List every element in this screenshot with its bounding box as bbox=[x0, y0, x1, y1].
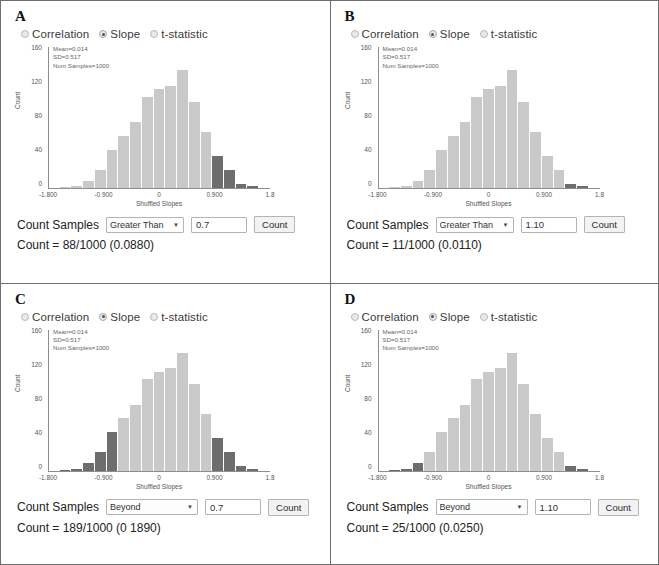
histogram-bar bbox=[401, 469, 413, 471]
stat-mean: Mean=0.014 bbox=[383, 45, 439, 53]
radio-correlation-b[interactable]: Correlation bbox=[351, 28, 419, 40]
y-tick-120: 120 bbox=[20, 361, 42, 368]
histogram-bar bbox=[177, 70, 189, 188]
count-controls-c: Count Samples Greater ThanLess ThanBeyon… bbox=[17, 499, 320, 516]
histogram-bar bbox=[436, 432, 448, 470]
x-axis-label: Shuffled Slopes bbox=[378, 483, 600, 490]
radio-slope-d[interactable]: Slope bbox=[429, 311, 470, 323]
panel-c: C Correlation Slope t-statistic Count 16… bbox=[1, 283, 330, 565]
radio-circle-icon[interactable] bbox=[21, 313, 29, 321]
radio-circle-icon[interactable] bbox=[21, 30, 29, 38]
comparison-dropdown-wrap[interactable]: Greater ThanLess ThanBeyondBetween ▼ bbox=[106, 217, 184, 233]
radio-circle-icon[interactable] bbox=[150, 313, 158, 321]
radio-slope-a[interactable]: Slope bbox=[99, 28, 140, 40]
threshold-input[interactable] bbox=[535, 499, 591, 515]
count-controls-d: Count Samples Greater ThanLess ThanBeyon… bbox=[347, 499, 649, 516]
y-tick-40: 40 bbox=[350, 146, 372, 153]
threshold-input[interactable] bbox=[205, 499, 261, 515]
comparison-dropdown[interactable]: Greater ThanLess ThanBeyondBetween bbox=[436, 499, 528, 515]
threshold-input[interactable] bbox=[191, 217, 247, 233]
stat-num-samples: Num Samples=1000 bbox=[383, 344, 439, 352]
x-axis-line bbox=[48, 188, 270, 189]
histogram-bar bbox=[118, 418, 130, 470]
x-tick-label: -0.900 bbox=[94, 474, 112, 481]
x-axis-line bbox=[48, 471, 270, 472]
radio-slope-b[interactable]: Slope bbox=[429, 28, 470, 40]
y-axis-label: Count bbox=[344, 374, 351, 391]
y-tick-80: 80 bbox=[20, 395, 42, 402]
count-result-a: Count = 88/1000 (0.0880) bbox=[17, 238, 320, 252]
y-tick-160: 160 bbox=[350, 44, 372, 51]
histogram-bar bbox=[118, 136, 130, 188]
stats-annotation-b: Mean=0.014 SD=0.517 Num Samples=1000 bbox=[383, 45, 439, 70]
histogram-bar bbox=[224, 170, 236, 188]
radio-tstatistic-c[interactable]: t-statistic bbox=[150, 311, 207, 323]
x-tick-label: 0.900 bbox=[536, 191, 552, 198]
histogram-bar bbox=[448, 418, 460, 470]
radio-circle-selected-icon[interactable] bbox=[429, 30, 437, 38]
panel-letter-c: C bbox=[15, 292, 320, 307]
radio-correlation-a[interactable]: Correlation bbox=[21, 28, 89, 40]
histogram-bar bbox=[95, 452, 107, 470]
histogram-bar bbox=[236, 466, 248, 470]
stat-num-samples: Num Samples=1000 bbox=[53, 62, 109, 70]
count-samples-label: Count Samples bbox=[347, 500, 429, 514]
radio-circle-icon[interactable] bbox=[351, 30, 359, 38]
histogram-bar bbox=[247, 186, 259, 188]
x-tick-label: -1.800 bbox=[368, 474, 386, 481]
histogram-bar bbox=[236, 184, 248, 188]
histogram-bar bbox=[436, 150, 448, 188]
count-button[interactable]: Count bbox=[254, 216, 295, 233]
stat-sd: SD=0.517 bbox=[53, 336, 109, 344]
radio-correlation-d[interactable]: Correlation bbox=[351, 311, 419, 323]
histogram-bar bbox=[542, 438, 554, 470]
radio-circle-icon[interactable] bbox=[480, 313, 488, 321]
count-button[interactable]: Count bbox=[598, 499, 639, 516]
radio-tstatistic-a[interactable]: t-statistic bbox=[150, 28, 207, 40]
comparison-dropdown[interactable]: Greater ThanLess ThanBeyondBetween bbox=[436, 217, 514, 233]
comparison-dropdown-wrap[interactable]: Greater ThanLess ThanBeyondBetween ▼ bbox=[106, 499, 198, 515]
radio-slope-c[interactable]: Slope bbox=[99, 311, 140, 323]
x-tick-label: -0.900 bbox=[94, 191, 112, 198]
comparison-dropdown[interactable]: Greater ThanLess ThanBeyondBetween bbox=[106, 499, 198, 515]
threshold-input[interactable] bbox=[521, 217, 577, 233]
y-tick-120: 120 bbox=[350, 361, 372, 368]
radio-tstatistic-b[interactable]: t-statistic bbox=[480, 28, 537, 40]
x-tick-label: -1.800 bbox=[39, 191, 57, 198]
statistic-radio-group-b: Correlation Slope t-statistic bbox=[351, 28, 649, 40]
radio-label-slope: Slope bbox=[440, 311, 470, 323]
y-tick-0: 0 bbox=[20, 180, 42, 187]
stats-annotation-c: Mean=0.014 SD=0.517 Num Samples=1000 bbox=[53, 328, 109, 353]
histogram-bar bbox=[413, 181, 425, 188]
radio-circle-icon[interactable] bbox=[150, 30, 158, 38]
histogram-bar bbox=[577, 469, 589, 471]
count-button[interactable]: Count bbox=[584, 216, 625, 233]
statistic-radio-group-a: Correlation Slope t-statistic bbox=[21, 28, 320, 40]
x-axis-label: Shuffled Slopes bbox=[378, 200, 600, 207]
radio-label-correlation: Correlation bbox=[32, 311, 89, 323]
radio-circle-selected-icon[interactable] bbox=[99, 313, 107, 321]
stat-num-samples: Num Samples=1000 bbox=[53, 344, 109, 352]
comparison-dropdown-wrap[interactable]: Greater ThanLess ThanBeyondBetween ▼ bbox=[436, 217, 514, 233]
histogram-bar bbox=[471, 97, 483, 188]
comparison-dropdown-wrap[interactable]: Greater ThanLess ThanBeyondBetween ▼ bbox=[436, 499, 528, 515]
radio-circle-icon[interactable] bbox=[480, 30, 488, 38]
histogram-bar bbox=[142, 97, 154, 188]
y-tick-80: 80 bbox=[350, 112, 372, 119]
radio-circle-selected-icon[interactable] bbox=[429, 313, 437, 321]
histogram-bar bbox=[189, 102, 201, 188]
radio-tstatistic-d[interactable]: t-statistic bbox=[480, 311, 537, 323]
radio-circle-selected-icon[interactable] bbox=[99, 30, 107, 38]
histogram-bar bbox=[83, 463, 95, 470]
x-axis-line bbox=[378, 188, 600, 189]
y-tick-0: 0 bbox=[350, 463, 372, 470]
radio-label-correlation: Correlation bbox=[362, 311, 419, 323]
count-button[interactable]: Count bbox=[268, 499, 309, 516]
radio-circle-icon[interactable] bbox=[351, 313, 359, 321]
comparison-dropdown[interactable]: Greater ThanLess ThanBeyondBetween bbox=[106, 217, 184, 233]
radio-correlation-c[interactable]: Correlation bbox=[21, 311, 89, 323]
y-tick-120: 120 bbox=[20, 78, 42, 85]
histogram-plot-b: Count 160 120 80 40 0 Mean=0.014 SD=0.51… bbox=[345, 41, 640, 209]
histogram-bar bbox=[495, 86, 507, 188]
histogram-bar bbox=[530, 132, 542, 188]
